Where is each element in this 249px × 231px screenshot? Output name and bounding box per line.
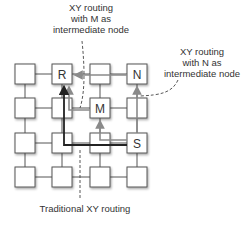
node-label-r: R	[58, 68, 67, 82]
mesh-links	[25, 74, 137, 177]
annotation-m-line3: intermediate node	[45, 24, 137, 35]
annotation-traditional: Traditional XY routing	[30, 203, 140, 214]
annotation-m-line1: XY routing	[45, 2, 137, 13]
annotation-traditional-text: Traditional XY routing	[30, 203, 140, 214]
annotation-n-line2: with N as	[156, 57, 248, 68]
node-label-s: S	[133, 137, 141, 151]
mesh-nodes	[15, 64, 147, 187]
annotation-n-line1: XY routing	[156, 46, 248, 57]
annotation-n-line3: intermediate node	[156, 68, 248, 79]
node-label-m: M	[95, 102, 105, 116]
node-label-n: N	[133, 68, 142, 82]
annotation-m-route: XY routing with M as intermediate node	[45, 2, 137, 35]
annotation-m-line2: with M as	[45, 13, 137, 24]
annotation-n-route: XY routing with N as intermediate node	[156, 46, 248, 79]
